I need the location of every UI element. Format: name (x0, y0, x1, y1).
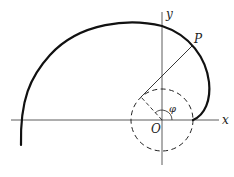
y-axis-label: y (165, 7, 173, 21)
involute-diagram: y x O P φ (0, 0, 234, 177)
angle-label: φ (169, 103, 176, 114)
tangent-line (141, 45, 193, 97)
involute-curve (21, 22, 209, 145)
point-label: P (193, 32, 203, 46)
x-axis-label: x (222, 113, 229, 127)
origin-label: O (151, 122, 161, 136)
radius-line (141, 97, 162, 120)
